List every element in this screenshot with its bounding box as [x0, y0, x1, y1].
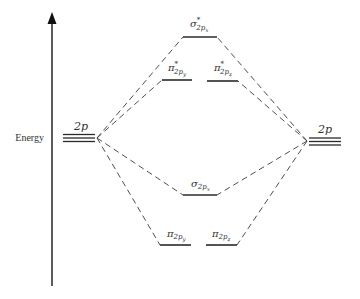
pi-2pz-label: π2pz: [211, 228, 231, 242]
mo-pi-star-2pz: π*2pz: [207, 60, 238, 81]
left-2p-label: 2p: [73, 120, 88, 133]
dash-left-sigma: [97, 138, 183, 195]
dash-right-sigma-star: [217, 37, 307, 141]
right-correlation-lines: [217, 37, 307, 245]
dash-left-sigma-star: [97, 37, 183, 138]
pi-star-2pz-label: π*2pz: [213, 60, 232, 77]
energy-axis-label: Energy: [15, 132, 44, 143]
mo-pi-star-2py: π*2py: [162, 60, 192, 80]
left-atomic-2p: 2p: [63, 120, 95, 142]
dash-right-pi-star: [238, 81, 307, 141]
dash-left-pi: [97, 138, 160, 245]
sigma-star-2px-label: σ*2px: [190, 16, 209, 33]
right-2p-label: 2p: [317, 123, 332, 136]
mo-diagram: Energy 2p 2p σ*2px π*2py: [0, 0, 360, 299]
right-atomic-2p: 2p: [309, 123, 341, 145]
dash-right-pi: [237, 141, 307, 245]
pi-star-2py-label: π*2py: [167, 60, 187, 78]
mo-pi-2pz: π2pz: [206, 228, 237, 245]
energy-axis: Energy: [15, 12, 56, 286]
dash-right-sigma: [217, 141, 307, 195]
dash-left-pi-star: [97, 80, 162, 138]
mo-pi-2py: π2py: [160, 228, 191, 245]
mo-sigma-star-2px: σ*2px: [183, 16, 217, 37]
pi-2py-label: π2py: [166, 228, 187, 243]
arrow-up-icon: [48, 12, 57, 24]
mo-sigma-2px: σ2px: [183, 178, 217, 195]
sigma-2px-label: σ2px: [191, 178, 211, 192]
